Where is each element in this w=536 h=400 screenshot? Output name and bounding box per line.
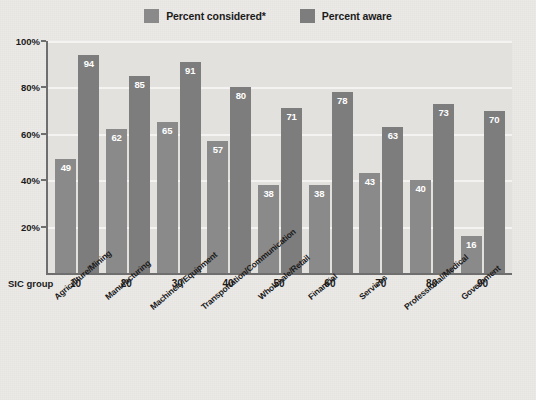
legend-item-percent-aware: Percent aware [300, 9, 392, 23]
bar-percent-aware[interactable]: 71 [281, 108, 302, 273]
bar-value-label: 80 [230, 90, 251, 101]
bar-value-label: 43 [359, 176, 380, 187]
bar-percent-aware[interactable]: 70 [484, 111, 505, 273]
bar-value-label: 40 [410, 183, 431, 194]
bar-percent-considered[interactable]: 65 [157, 122, 178, 273]
category-label-slot: Services [355, 292, 406, 392]
legend-label-percent-considered: Percent considered* [166, 10, 266, 22]
chart-page: Percent considered* Percent aware 100%80… [0, 0, 536, 400]
bar-value-label: 16 [461, 239, 482, 250]
bar-value-label: 70 [484, 114, 505, 125]
y-axis-tick-label: 40% [21, 175, 40, 186]
category-label-slot: Machinery/Equipment [152, 292, 203, 392]
category-label-slot: Agriculture/Mining [50, 292, 101, 392]
category-tick-labels: Agriculture/MiningManufacturingMachinery… [46, 292, 512, 392]
y-axis-tick-label: 80% [21, 82, 40, 93]
legend-item-percent-considered: Percent considered* [144, 9, 266, 23]
category-label-slot: Wholesale/Retail [254, 292, 305, 392]
bar-value-label: 85 [129, 79, 150, 90]
category-label-slot: Financial [304, 292, 355, 392]
bar-percent-aware[interactable]: 73 [433, 104, 454, 273]
bar-value-label: 62 [106, 132, 127, 143]
bar-group: 6591 [153, 41, 204, 273]
legend-label-percent-aware: Percent aware [322, 10, 392, 22]
bar-group: 4363 [356, 41, 407, 273]
bar-percent-aware[interactable]: 63 [382, 127, 403, 273]
y-axis-tick-label: 20% [21, 221, 40, 232]
bar-group: 1670 [457, 41, 508, 273]
bar-value-label: 71 [281, 111, 302, 122]
bar-percent-aware[interactable]: 85 [129, 76, 150, 273]
bar-percent-aware[interactable]: 94 [78, 55, 99, 273]
category-label-slot: Transportation/Communication [203, 292, 254, 392]
bar-value-label: 73 [433, 107, 454, 118]
y-axis-tick-label: 60% [21, 128, 40, 139]
bar-percent-considered[interactable]: 43 [359, 173, 380, 273]
legend-swatch-percent-aware [300, 9, 315, 23]
y-axis-tick-label: 100% [16, 36, 40, 47]
bar-group: 4073 [407, 41, 458, 273]
bar-value-label: 38 [309, 188, 330, 199]
bar-percent-aware[interactable]: 80 [230, 87, 251, 273]
bar-value-label: 63 [382, 130, 403, 141]
chart-legend: Percent considered* Percent aware [0, 5, 536, 27]
category-label-slot: Professional/Medical [406, 292, 457, 392]
bar-value-label: 94 [78, 58, 99, 69]
category-label-slot: Manufacturing [101, 292, 152, 392]
bar-group: 6285 [103, 41, 154, 273]
y-axis: 100%80%60%40%20% [0, 41, 46, 273]
bar-value-label: 65 [157, 125, 178, 136]
bar-value-label: 91 [180, 65, 201, 76]
bar-percent-aware[interactable]: 91 [180, 62, 201, 273]
bar-percent-aware[interactable]: 78 [332, 92, 353, 273]
bar-value-label: 78 [332, 95, 353, 106]
bar-value-label: 57 [207, 144, 228, 155]
bar-value-label: 49 [55, 162, 76, 173]
bar-percent-considered[interactable]: 40 [410, 180, 431, 273]
bar-value-label: 38 [258, 188, 279, 199]
bar-percent-considered[interactable]: 49 [55, 159, 76, 273]
category-label-slot: Government [457, 292, 508, 392]
legend-swatch-percent-considered [144, 9, 159, 23]
bar-group: 4994 [52, 41, 103, 273]
bar-group: 5780 [204, 41, 255, 273]
bar-group: 3878 [305, 41, 356, 273]
